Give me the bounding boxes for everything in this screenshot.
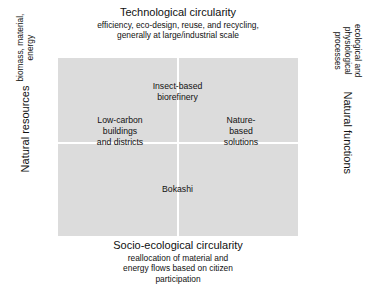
axis-subtitle-right: ecological and physiological processes [333,14,364,87]
axis-title-bottom: Socio-ecological circularity [38,239,318,253]
axis-subtitle-top: efficiency, eco-design, reuse, and recyc… [38,20,318,41]
axis-title-left: Natural resources [19,86,32,173]
axis-caption-left: Natural resources biomass, material, ene… [2,13,48,173]
axis-title-top: Technological circularity [38,6,318,20]
item-label-insect-based-biorefinery: Insect-based biorefinery [120,81,235,103]
axis-title-right: Natural functions [342,91,355,174]
axis-subtitle-bottom: reallocation of material and energy flow… [38,253,318,284]
axis-caption-right: Natural functions ecological and physiol… [324,14,367,174]
axis-caption-top: Technological circularity efficiency, ec… [38,6,318,41]
item-label-bokashi: Bokashi [120,184,235,195]
item-label-low-carbon-buildings: Low-carbon buildings and districts [64,115,176,148]
axis-subtitle-left: biomass, material, energy [15,14,36,82]
axis-caption-bottom: Socio-ecological circularity reallocatio… [38,239,318,284]
plot-area: Insect-based biorefinery Low-carbon buil… [58,58,298,236]
item-label-nature-based-solutions: Nature- based solutions [191,115,291,148]
